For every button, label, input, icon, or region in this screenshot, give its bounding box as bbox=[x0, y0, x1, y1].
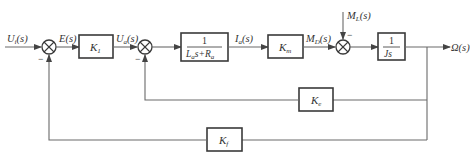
svg-text:1: 1 bbox=[389, 35, 394, 46]
motor-torque-label: MD(s) bbox=[305, 33, 331, 46]
block-kf: Kf bbox=[207, 128, 242, 151]
summing-junction-3 bbox=[336, 40, 350, 54]
kf-feedback-out-wire bbox=[49, 55, 207, 140]
output-signal-label: Ω(s) bbox=[451, 42, 470, 54]
block-km: Km bbox=[268, 35, 303, 58]
block-k1: K1 bbox=[79, 35, 113, 58]
sum1-minus-sign: − bbox=[38, 54, 43, 64]
svg-text:1: 1 bbox=[202, 35, 207, 46]
armature-current-label: Ia(s) bbox=[234, 33, 254, 46]
summing-junction-2 bbox=[138, 40, 152, 54]
sum2-minus-sign: − bbox=[135, 54, 140, 64]
block-diagram: Ui(s) − E(s) K1 Ua(s) − 1 Las+Ra Ia(s) K… bbox=[0, 0, 470, 161]
error-signal-label: E(s) bbox=[58, 33, 77, 45]
armature-voltage-label: Ua(s) bbox=[116, 33, 139, 46]
sum3-minus-sign: − bbox=[347, 30, 352, 40]
block-ke: Ke bbox=[299, 88, 333, 111]
input-signal-label: Ui(s) bbox=[7, 33, 28, 46]
summing-junction-1 bbox=[42, 40, 56, 54]
load-torque-label: ML(s) bbox=[346, 10, 371, 23]
block-inertia: 1 Js bbox=[378, 33, 405, 60]
block-armature-transfer: 1 Las+Ra bbox=[181, 33, 228, 61]
svg-text:Js: Js bbox=[384, 49, 392, 59]
